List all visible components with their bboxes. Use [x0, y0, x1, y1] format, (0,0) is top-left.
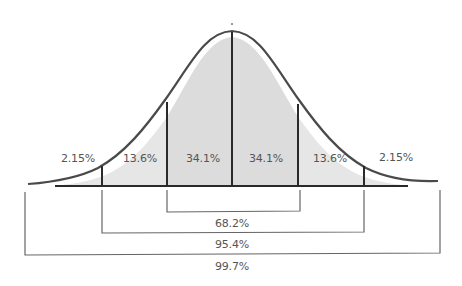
- bracket-label-68: 68.2%: [215, 217, 249, 230]
- segment-label-plus3: 2.15%: [379, 151, 413, 164]
- segment-label-plus2: 13.6%: [313, 152, 347, 165]
- segment-label-minus3: 2.15%: [61, 152, 95, 165]
- segment-label-plus1: 34.1%: [249, 152, 283, 165]
- bracket-label-95: 95.4%: [215, 238, 249, 251]
- segment-label-minus2: 13.6%: [123, 152, 157, 165]
- bracket-68: [167, 190, 300, 212]
- segment-label-minus1: 34.1%: [186, 152, 220, 165]
- bracket-label-99: 99.7%: [215, 260, 249, 273]
- normal-distribution-chart: 2.15% 13.6% 34.1% 34.1% 13.6% 2.15% 68.2…: [0, 0, 462, 286]
